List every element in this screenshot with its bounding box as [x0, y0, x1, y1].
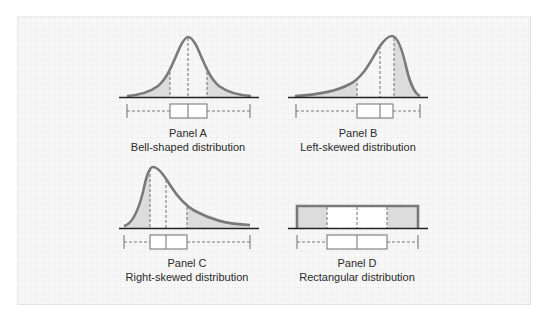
panel-c-graphic — [119, 167, 259, 249]
panel-d-description: Rectangular distribution — [267, 270, 447, 284]
panel-b-boxplot — [296, 104, 420, 118]
panel-c-boxplot — [124, 235, 250, 249]
panel-d-caption: Panel D Rectangular distribution — [267, 256, 447, 284]
panel-b-description: Left-skewed distribution — [268, 140, 448, 154]
panel-a-description: Bell-shaped distribution — [98, 140, 278, 154]
panel-c-caption: Panel C Right-skewed distribution — [97, 256, 277, 284]
panel-c-description: Right-skewed distribution — [97, 270, 277, 284]
panel-d-right-tail-fill — [387, 206, 418, 228]
panel-a-bell-curve — [127, 37, 251, 96]
panel-c-label: Panel C — [97, 256, 277, 270]
panel-b-caption: Panel B Left-skewed distribution — [268, 126, 448, 154]
panel-a-right-tail-fill — [207, 72, 250, 97]
panel-d-left-tail-fill — [297, 206, 327, 228]
panel-b-label: Panel B — [268, 126, 448, 140]
panel-d-boxplot — [297, 235, 418, 249]
panel-a-boxplot — [127, 104, 250, 118]
panel-a-graphic — [119, 37, 259, 118]
panel-a-label: Panel A — [98, 126, 278, 140]
panel-d-graphic — [288, 206, 428, 249]
panel-a-caption: Panel A Bell-shaped distribution — [98, 126, 278, 154]
panel-b-graphic — [288, 36, 428, 118]
panel-a-left-tail-fill — [128, 72, 170, 97]
panel-d-label: Panel D — [267, 256, 447, 270]
